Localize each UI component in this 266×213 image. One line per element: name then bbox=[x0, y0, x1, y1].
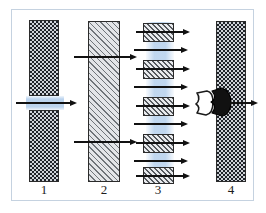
arrow-shaft bbox=[16, 102, 71, 104]
panel-1-label: 1 bbox=[24, 182, 64, 198]
arrow-shaft bbox=[136, 68, 184, 70]
panel-2-label: 2 bbox=[84, 182, 124, 198]
arrow-head bbox=[181, 84, 188, 90]
arrow-shaft bbox=[134, 49, 182, 51]
arrow-head bbox=[181, 47, 188, 53]
arrow-shaft bbox=[136, 142, 184, 144]
arrow-shaft bbox=[134, 160, 182, 162]
arrow-shaft bbox=[74, 141, 131, 143]
panel-3-label: 3 bbox=[138, 182, 178, 198]
panel-1-wall-lower bbox=[29, 110, 59, 182]
arrow-head bbox=[183, 173, 190, 179]
arrow-shaft bbox=[222, 102, 252, 104]
arrow-shaft bbox=[136, 175, 184, 177]
arrow-shaft bbox=[134, 123, 182, 125]
panel-3: 3 bbox=[132, 10, 198, 202]
panel-2-wall bbox=[88, 21, 120, 182]
panel-2: 2 bbox=[70, 10, 132, 202]
arrow-head bbox=[183, 29, 190, 35]
figure-frame: 1 2 bbox=[11, 9, 254, 201]
arrow-shaft bbox=[136, 105, 184, 107]
panel-1: 1 bbox=[12, 10, 70, 202]
figure-root: 1 2 bbox=[0, 0, 266, 213]
arrow-head bbox=[183, 103, 190, 109]
arrow-head bbox=[183, 140, 190, 146]
arrow-shaft bbox=[136, 31, 184, 33]
arrow-shaft bbox=[134, 86, 182, 88]
arrow-shaft bbox=[74, 56, 131, 58]
arrow-head bbox=[251, 100, 258, 106]
arrow-head bbox=[181, 121, 188, 127]
arrow-head bbox=[183, 66, 190, 72]
arrow-head bbox=[181, 158, 188, 164]
panel-4-label: 4 bbox=[211, 182, 251, 198]
panel-4: 4 bbox=[198, 10, 255, 202]
panel-1-wall-upper bbox=[29, 20, 59, 96]
